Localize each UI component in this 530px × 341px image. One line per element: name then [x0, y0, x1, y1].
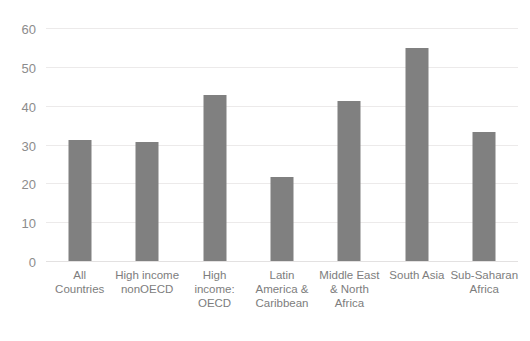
bar[interactable]: [68, 140, 91, 262]
plot-area: [46, 29, 518, 262]
y-axis-tick-label: 20: [10, 178, 36, 191]
y-axis-tick-label: 40: [10, 100, 36, 113]
bar[interactable]: [203, 95, 226, 262]
bar-chart: 0102030405060 All CountriesHigh income n…: [0, 0, 530, 341]
bar[interactable]: [136, 142, 159, 262]
y-axis-tick-label: 50: [10, 61, 36, 74]
bar-slot: [113, 29, 180, 262]
bar[interactable]: [338, 101, 361, 262]
x-axis-category-label: Sub-Saharan Africa: [445, 268, 524, 296]
bar-slot: [248, 29, 315, 262]
bar-slot: [46, 29, 113, 262]
bar[interactable]: [473, 132, 496, 262]
y-axis-tick-label: 30: [10, 139, 36, 152]
bar[interactable]: [270, 177, 293, 262]
bar-slot: [383, 29, 450, 262]
y-axis-tick-label: 0: [10, 256, 36, 269]
y-axis-tick-label: 60: [10, 23, 36, 36]
bar-slot: [316, 29, 383, 262]
bar[interactable]: [405, 48, 428, 262]
bar-slot: [451, 29, 518, 262]
y-axis-tick-label: 10: [10, 217, 36, 230]
bar-slot: [181, 29, 248, 262]
x-axis-baseline: [46, 261, 518, 262]
